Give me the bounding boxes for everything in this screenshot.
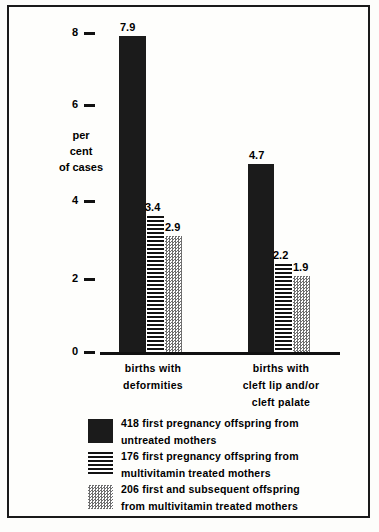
x-category-label-group1: births with deformities <box>92 360 214 394</box>
figure-container: 8 6 4 2 0 per cent of cases 7.9 3.4 2.9 … <box>0 0 379 532</box>
bar-group1-series3 <box>164 236 182 352</box>
legend-text-untreated-line1: 418 first pregnancy offspring from <box>121 415 299 432</box>
x-category-label-group2-line2: cleft lip and/or <box>216 377 346 394</box>
legend-item-treated-first: 176 first pregnancy offspring from multi… <box>88 450 368 483</box>
y-tick-label-6: 6 <box>52 98 78 110</box>
y-tick-label-4: 4 <box>52 194 78 206</box>
y-tick-dash-2 <box>84 278 95 281</box>
dotted-swatch-icon <box>88 485 113 509</box>
y-tick-dash-6 <box>84 104 95 107</box>
bar-value-label-g1s3: 2.9 <box>165 221 180 233</box>
y-axis-title-line-2: cent <box>46 143 116 159</box>
bar-group2-series3 <box>292 276 310 352</box>
y-tick-dash-0 <box>84 351 95 354</box>
x-category-label-group2-line1: births with <box>216 360 346 377</box>
legend-text-untreated: 418 first pregnancy offspring from untre… <box>121 415 299 448</box>
y-axis-title-line-3: of cases <box>46 159 116 175</box>
legend-text-treated-subsequent: 206 first and subsequent offspring from … <box>121 481 300 514</box>
x-category-label-group1-line2: deformities <box>92 377 214 394</box>
bar-group1-series2 <box>146 216 164 352</box>
x-axis-baseline <box>100 352 340 355</box>
legend-text-treated-subsequent-line1: 206 first and subsequent offspring <box>121 481 300 498</box>
legend-text-treated-first-line1: 176 first pregnancy offspring from <box>121 448 299 465</box>
solid-black-swatch-icon <box>88 419 113 443</box>
y-tick-label-0: 0 <box>52 345 78 357</box>
x-category-label-group2-line3: cleft palate <box>216 394 346 411</box>
legend-text-treated-subsequent-line2: from multivitamin treated mothers <box>121 498 300 515</box>
bar-value-label-g2s2: 2.2 <box>273 249 288 261</box>
bar-value-label-g1s1: 7.9 <box>120 21 135 33</box>
bar-value-label-g1s2: 3.4 <box>145 201 160 213</box>
chart-legend: 418 first pregnancy offspring from untre… <box>88 417 368 516</box>
bar-value-label-g2s3: 1.9 <box>293 261 308 273</box>
bar-group2-series1 <box>248 164 274 352</box>
y-tick-label-2: 2 <box>52 272 78 284</box>
y-tick-dash-8 <box>84 32 95 35</box>
y-axis-title-line-1: per <box>46 127 116 143</box>
striped-swatch-icon <box>88 452 113 476</box>
bar-group1-series1 <box>119 36 146 352</box>
legend-item-treated-subsequent: 206 first and subsequent offspring from … <box>88 483 368 516</box>
legend-text-untreated-line2: untreated mothers <box>121 432 299 449</box>
y-tick-dash-4 <box>84 200 95 203</box>
x-category-label-group1-line1: births with <box>92 360 214 377</box>
legend-text-treated-first-line2: multivitamin treated mothers <box>121 465 299 482</box>
bar-value-label-g2s1: 4.7 <box>249 149 264 161</box>
legend-item-untreated: 418 first pregnancy offspring from untre… <box>88 417 368 450</box>
x-category-label-group2: births with cleft lip and/or cleft palat… <box>216 360 346 411</box>
legend-text-treated-first: 176 first pregnancy offspring from multi… <box>121 448 299 481</box>
bar-chart-plot-area: 8 6 4 2 0 per cent of cases 7.9 3.4 2.9 … <box>0 0 379 532</box>
y-axis-title: per cent of cases <box>46 127 116 175</box>
y-tick-label-8: 8 <box>52 26 78 38</box>
bar-group2-series2 <box>274 264 292 352</box>
